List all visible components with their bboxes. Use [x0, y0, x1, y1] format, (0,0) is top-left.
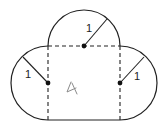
handwritten-mark — [67, 82, 77, 94]
compound-shape-diagram: 1 1 1 — [0, 0, 164, 129]
right-radius-label: 1 — [134, 70, 140, 82]
top-semicircle-arc — [48, 10, 120, 46]
left-center-dot — [46, 81, 51, 86]
left-radius-label: 1 — [25, 68, 31, 80]
top-center-dot — [82, 44, 87, 49]
left-semicircle-arc — [11, 46, 48, 120]
right-center-dot — [118, 81, 123, 86]
top-radius-label: 1 — [86, 22, 92, 34]
right-radius-line — [120, 57, 144, 83]
right-semicircle-arc — [120, 46, 157, 120]
